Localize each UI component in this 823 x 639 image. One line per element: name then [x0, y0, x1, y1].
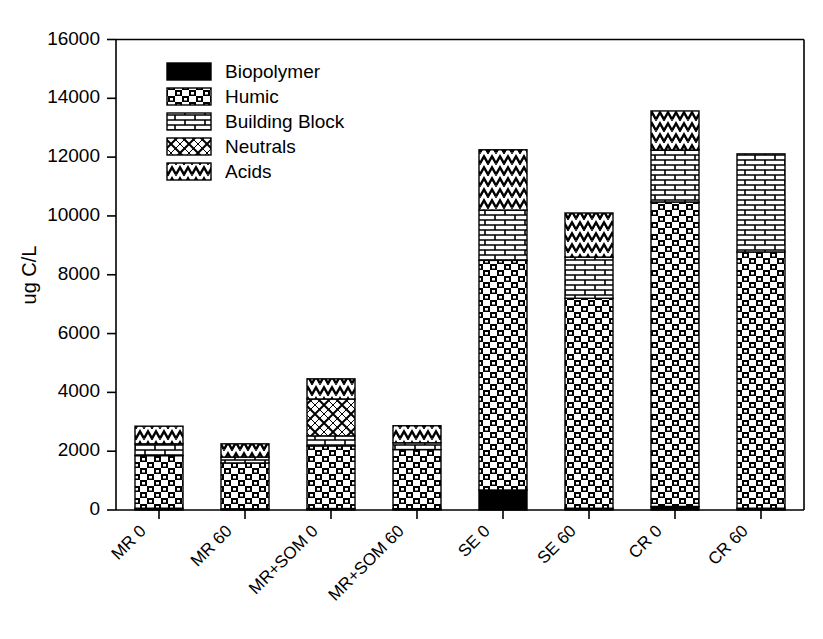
y-axis-label: ug C/L: [18, 246, 40, 305]
plot-frame: [116, 40, 804, 511]
bar-segment-acids: [393, 426, 441, 443]
bar-segment-building-block: [479, 210, 527, 260]
x-tick-label: CR 60: [704, 521, 752, 569]
bar-segment-building-block: [565, 257, 613, 298]
bar-segment-humic: [737, 252, 785, 508]
legend-label-humic: Humic: [225, 86, 279, 107]
bar-segment-acids: [221, 444, 269, 457]
bar-segment-humic: [221, 463, 269, 509]
bar-segment-humic: [135, 456, 183, 509]
bar-segment-acids: [135, 426, 183, 444]
bar-segment-building-block: [651, 150, 699, 202]
y-tick-label: 14000: [47, 86, 100, 107]
y-axis-ticks: 0200040006000800010000120001400016000: [47, 28, 116, 520]
legend-swatch-humic: [167, 88, 211, 105]
y-tick-label: 6000: [58, 322, 100, 343]
legend-label-building-block: Building Block: [225, 111, 345, 132]
legend-swatch-neutrals: [167, 138, 211, 155]
y-tick-label: 12000: [47, 145, 100, 166]
y-tick-label: 2000: [58, 439, 100, 460]
bar-segment-humic: [307, 446, 355, 509]
y-tick-label: 0: [89, 498, 100, 519]
bar-segment-building-block: [135, 444, 183, 456]
legend-swatch-biopolymer: [167, 63, 211, 80]
bar-segment-acids: [479, 150, 527, 210]
bar-segment-humic: [651, 202, 699, 507]
x-tick-label: SE 60: [534, 521, 580, 567]
legend: BiopolymerHumicBuilding BlockNeutralsAci…: [167, 61, 345, 182]
legend-label-acids: Acids: [225, 161, 271, 182]
legend-label-neutrals: Neutrals: [225, 136, 296, 157]
bar-segment-humic: [565, 298, 613, 508]
bar-segment-acids: [565, 213, 613, 257]
legend-label-biopolymer: Biopolymer: [225, 61, 321, 82]
chart-container: 0200040006000800010000120001400016000 MR…: [0, 0, 823, 639]
bar-segment-acids: [307, 379, 355, 399]
x-tick-label: MR+SOM 60: [325, 521, 408, 604]
x-tick-label: MR 60: [187, 521, 236, 570]
stacked-bar-chart: 0200040006000800010000120001400016000 MR…: [0, 0, 823, 639]
legend-swatch-acids: [167, 163, 211, 180]
bar-segment-building-block: [307, 436, 355, 446]
bar-segment-humic: [393, 450, 441, 509]
bar-segment-neutrals: [307, 399, 355, 436]
bar-segment-humic: [479, 260, 527, 490]
y-tick-label: 10000: [47, 204, 100, 225]
bar-segment-building-block: [393, 443, 441, 450]
x-tick-label: CR 0: [625, 521, 666, 562]
x-tick-label: SE 0: [454, 521, 493, 560]
y-tick-label: 16000: [47, 28, 100, 49]
x-axis-ticks: MR 0MR 60MR+SOM 0MR+SOM 60SE 0SE 60CR 0C…: [108, 510, 761, 605]
x-tick-label: MR 0: [108, 521, 150, 563]
bar-segment-building-block: [221, 457, 269, 463]
bar-segment-biopolymer: [479, 490, 527, 510]
y-tick-label: 8000: [58, 263, 100, 284]
bar-segment-building-block: [737, 154, 785, 252]
legend-swatch-building-block: [167, 113, 211, 130]
y-tick-label: 4000: [58, 380, 100, 401]
bar-segment-acids: [651, 111, 699, 150]
x-tick-label: MR+SOM 0: [245, 521, 322, 598]
